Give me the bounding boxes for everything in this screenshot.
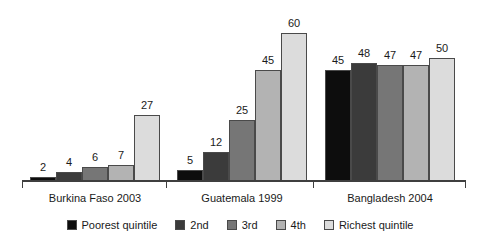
bar-bangladesh-2004-poorest-quintile[interactable]: 45 [325,2,351,182]
legend-item-2nd[interactable]: 2nd [175,219,208,231]
bar-value-label: 45 [332,55,344,66]
bar-rect[interactable] [351,63,377,182]
x-axis-line [22,180,466,182]
bar-rect[interactable] [203,152,229,182]
axis-tick-2 [166,180,167,188]
bar-bangladesh-2004-richest-quintile[interactable]: 50 [429,2,455,182]
bar-value-label: 7 [118,150,124,161]
bar-bangladesh-2004-3rd[interactable]: 47 [377,2,403,182]
bar-rect[interactable] [281,33,307,182]
legend-swatch-icon [67,220,77,230]
bar-rect[interactable] [255,70,281,182]
bar-value-label: 2 [40,162,46,173]
legend-label: Richest quintile [339,219,414,231]
bar-rect[interactable] [377,65,403,182]
bar-value-label: 45 [262,55,274,66]
bar-burkina-faso-2003-2nd[interactable]: 4 [56,2,82,182]
legend-item-4th[interactable]: 4th [276,219,306,231]
bar-guatemala-1999-3rd[interactable]: 25 [229,2,255,182]
bar-value-label: 4 [66,157,72,168]
bar-rect[interactable] [229,120,255,182]
legend-swatch-icon [175,220,185,230]
bar-value-label: 48 [358,48,370,59]
bar-value-label: 60 [288,18,300,29]
bar-guatemala-1999-poorest-quintile[interactable]: 5 [177,2,203,182]
chart-legend: Poorest quintile2nd3rd4thRichest quintil… [0,219,480,231]
axis-tick-3 [313,180,314,188]
bar-value-label: 25 [236,105,248,116]
plot-area: 2467275122545604548474750 [0,0,480,182]
bar-group-3: 4548474750 [325,2,455,182]
bar-guatemala-1999-2nd[interactable]: 12 [203,2,229,182]
bar-burkina-faso-2003-poorest-quintile[interactable]: 2 [30,2,56,182]
legend-label: 3rd [242,219,258,231]
bar-group-2: 512254560 [177,2,307,182]
legend-swatch-icon [324,220,334,230]
bar-guatemala-1999-richest-quintile[interactable]: 60 [281,2,307,182]
bar-value-label: 47 [410,50,422,61]
bar-bangladesh-2004-2nd[interactable]: 48 [351,2,377,182]
legend-label: 2nd [190,219,208,231]
bar-chart: 2467275122545604548474750 Burkina Faso 2… [0,0,480,249]
bar-burkina-faso-2003-richest-quintile[interactable]: 27 [134,2,160,182]
axis-tick-4 [465,180,466,188]
bar-guatemala-1999-4th[interactable]: 45 [255,2,281,182]
legend-label: Poorest quintile [82,219,158,231]
bar-rect[interactable] [429,58,455,182]
legend-swatch-icon [276,220,286,230]
bar-value-label: 47 [384,50,396,61]
bar-value-label: 12 [210,137,222,148]
legend-item-poorest-quintile[interactable]: Poorest quintile [67,219,158,231]
bar-burkina-faso-2003-3rd[interactable]: 6 [82,2,108,182]
legend-label: 4th [291,219,306,231]
category-label-1: Burkina Faso 2003 [15,192,175,204]
bar-value-label: 6 [92,152,98,163]
bar-value-label: 50 [436,43,448,54]
bar-group-1: 246727 [30,2,160,182]
bar-rect[interactable] [403,65,429,182]
category-label-2: Guatemala 1999 [162,192,322,204]
bar-rect[interactable] [325,70,351,182]
bar-value-label: 5 [187,155,193,166]
legend-item-3rd[interactable]: 3rd [227,219,258,231]
legend-swatch-icon [227,220,237,230]
legend-item-richest-quintile[interactable]: Richest quintile [324,219,414,231]
bar-burkina-faso-2003-4th[interactable]: 7 [108,2,134,182]
bar-bangladesh-2004-4th[interactable]: 47 [403,2,429,182]
bar-rect[interactable] [134,115,160,182]
axis-tick-1 [22,180,23,188]
category-label-3: Bangladesh 2004 [310,192,470,204]
bar-value-label: 27 [141,100,153,111]
